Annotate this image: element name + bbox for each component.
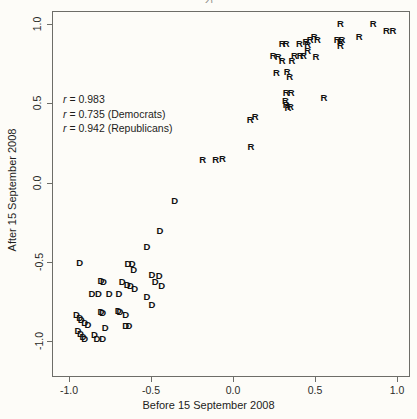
x-axis-tick-label: -1.0 — [60, 384, 78, 396]
x-axis-tick-label: 0.0 — [226, 384, 241, 396]
data-point-d: D — [84, 320, 91, 330]
correlation-value: = 0.983 — [67, 93, 105, 105]
x-axis-tick — [233, 377, 234, 382]
data-point-d: D — [171, 196, 178, 206]
data-point-r: R — [370, 19, 377, 29]
x-axis-tick — [397, 377, 398, 382]
data-point-d: D — [148, 301, 155, 311]
data-point-d: D — [116, 289, 123, 299]
data-point-r: R — [312, 53, 319, 63]
data-point-r: R — [199, 155, 206, 165]
y-axis-tick — [47, 262, 52, 263]
data-point-r: R — [248, 142, 255, 152]
correlation-annotation-line: r = 0.735 (Democrats) — [63, 107, 172, 122]
y-axis-tick-label: 1.0 — [31, 17, 43, 32]
correlation-annotation-line: r = 0.983 — [63, 92, 172, 107]
x-axis-tick — [151, 377, 152, 382]
x-axis-tick-label: 0.5 — [308, 384, 323, 396]
y-axis-tick-label: -1.0 — [33, 332, 45, 350]
data-point-d: D — [125, 321, 132, 331]
y-axis-tick-label: 0.0 — [31, 175, 43, 190]
x-axis-tick-label: 1.0 — [390, 384, 405, 396]
data-point-d: D — [95, 289, 102, 299]
x-axis-tick-label: -0.5 — [142, 384, 160, 396]
data-point-d: D — [130, 266, 137, 276]
data-point-r: R — [337, 19, 344, 29]
scatter-plot-figure: 2) RRRRRRRRRRRRRRRRRRRRRRRRRRRRRRRRRRRRR… — [0, 0, 417, 419]
cropped-title-fragment: 2) — [0, 0, 417, 3]
data-point-r: R — [252, 112, 259, 122]
data-point-r: R — [300, 51, 307, 61]
data-point-d: D — [76, 258, 83, 268]
y-axis-tick — [47, 103, 52, 104]
data-point-r: R — [279, 57, 286, 67]
x-axis-label: Before 15 September 2008 — [0, 399, 417, 411]
y-axis-tick — [47, 341, 52, 342]
data-point-r: R — [283, 39, 290, 49]
data-point-d: D — [100, 277, 107, 287]
data-point-d: D — [158, 282, 165, 292]
data-point-d: D — [143, 242, 150, 252]
data-point-r: R — [314, 35, 321, 45]
data-point-d: D — [81, 335, 88, 345]
y-axis-tick-label: 0.5 — [31, 96, 43, 111]
data-point-r: R — [273, 68, 280, 78]
data-point-r: R — [337, 41, 344, 51]
data-point-d: D — [122, 310, 129, 320]
data-point-r: R — [219, 154, 226, 164]
y-axis-tick — [47, 24, 52, 25]
y-axis-tick — [47, 183, 52, 184]
y-axis-tick-label: -0.5 — [33, 253, 45, 271]
data-point-r: R — [289, 57, 296, 67]
data-point-d: D — [131, 284, 138, 294]
correlation-annotation-line: r = 0.942 (Republicans) — [63, 121, 172, 136]
y-axis-label-wrapper: After 15 September 2008 — [4, 0, 20, 380]
correlation-value: = 0.735 (Democrats) — [67, 108, 166, 120]
data-point-d: D — [99, 335, 106, 345]
data-point-r: R — [321, 94, 328, 104]
data-point-r: R — [285, 103, 292, 113]
data-point-d: D — [106, 289, 113, 299]
data-points-layer: RRRRRRRRRRRRRRRRRRRRRRRRRRRRRRRRRRRRRRRR… — [52, 11, 410, 377]
data-point-r: R — [286, 72, 293, 82]
correlation-annotations: r = 0.983r = 0.735 (Democrats)r = 0.942 … — [63, 92, 172, 136]
data-point-d: D — [99, 309, 106, 319]
data-point-r: R — [389, 26, 396, 36]
data-point-r: R — [356, 33, 363, 43]
data-point-d: D — [102, 323, 109, 333]
data-point-r: R — [296, 39, 303, 49]
x-axis-tick — [315, 377, 316, 382]
y-axis-label: After 15 September 2008 — [6, 129, 18, 252]
data-point-d: D — [157, 226, 164, 236]
x-axis-tick — [69, 377, 70, 382]
correlation-value: = 0.942 (Republicans) — [67, 122, 173, 134]
